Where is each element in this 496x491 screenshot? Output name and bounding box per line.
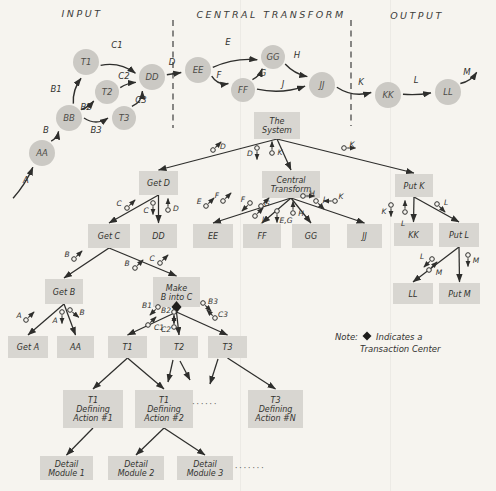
data-couple-label-M: M (473, 256, 480, 265)
flow-edge-label-G: G (260, 68, 267, 78)
data-couple-circle-icon (389, 203, 394, 208)
module-label-line: Get B (53, 288, 75, 297)
data-couple-circle-icon (291, 211, 296, 216)
module-label-line: Detail (124, 460, 148, 469)
data-couple-label-L: L (401, 219, 405, 228)
module-label-line: Put L (449, 231, 469, 240)
data-couple-label-J: J (260, 215, 264, 224)
data-couple-F: F (215, 191, 231, 204)
flow-edge-H (285, 64, 307, 77)
section-header-input: INPUT (62, 8, 103, 19)
data-couple-label-C2: C2 (161, 325, 171, 334)
data-couple-label-B1: B1 (142, 301, 152, 310)
flow-edge-label-K: K (358, 77, 365, 87)
data-couple-circle-icon (314, 199, 319, 204)
module-label-line: Module 3 (187, 469, 224, 478)
module-label-line: Defining (259, 405, 293, 414)
data-couple-circle-icon (133, 266, 138, 271)
data-couple-label-E,G: E,G (280, 216, 293, 225)
link-getB-to-getA (28, 304, 64, 335)
link-putK-to-putL (414, 197, 459, 222)
data-couple-circle-icon (172, 310, 177, 315)
module-label-line: Get C (98, 232, 121, 241)
link-system-to-putK (277, 139, 414, 173)
module-label-putK: Put K (404, 182, 426, 191)
link-act2-to-det2 (136, 428, 164, 455)
module-label-putM: Put M (448, 290, 471, 299)
link-putK-to-kk (414, 197, 415, 222)
data-couple-A: A (15, 311, 34, 323)
flow-edge-label-L: L (414, 75, 419, 85)
data-couple-H: H (291, 202, 304, 218)
data-couple-G: G (259, 198, 270, 208)
note-prefix: Note: (335, 332, 358, 342)
data-couple-label-B: B (79, 308, 84, 317)
data-couple-arrow-icon (76, 251, 82, 257)
module-label-line: Get D (147, 179, 170, 188)
data-couple-circle-icon (151, 201, 156, 206)
data-couple-B3: B3 (201, 297, 218, 312)
module-label-line: Put M (448, 290, 471, 299)
module-label-line: Detail (55, 460, 79, 469)
flow-edge-C2 (120, 82, 136, 87)
data-couple-circle-icon (204, 204, 209, 209)
module-label-line: Action #2 (143, 414, 184, 423)
transform-analysis-diagram: INPUTCENTRAL TRANSFORMOUTPUTABB1B2B3C1C2… (0, 0, 496, 491)
module-label-putL: Put L (449, 231, 469, 240)
data-couple-circle-icon (166, 208, 171, 213)
flow-edge-label-D: D (169, 57, 176, 67)
note-line2: Transaction Center (360, 344, 441, 354)
data-couple-C3: C3 (207, 310, 228, 321)
data-couple-arrow-icon (205, 305, 211, 311)
flow-edge-label-C1: C1 (111, 40, 122, 50)
module-label-line: Action #1 (72, 414, 113, 423)
data-couple-B: B (68, 308, 85, 318)
module-label-central: CentralTransform (271, 176, 312, 194)
data-couple-K: K (382, 203, 394, 217)
data-couple-label-H: H (298, 209, 304, 218)
module-label-line: Defining (147, 405, 181, 414)
flow-edge-label-B: B (43, 125, 49, 135)
data-couple-label-L: L (444, 198, 448, 207)
data-couple-K: K (270, 142, 284, 157)
flow-node-label-GG: GG (266, 52, 280, 62)
data-couple-D: D (247, 146, 259, 160)
module-label-line: GG (305, 232, 317, 241)
data-couple-D: D (166, 199, 179, 213)
flow-node-label-KK: KK (382, 90, 395, 100)
data-couple-circle-icon (255, 146, 260, 151)
flow-edge-B3 (84, 118, 108, 122)
data-couple-label-D: D (247, 149, 253, 158)
flow-node-label-T1: T1 (81, 57, 92, 67)
link-act1-to-det1 (67, 428, 94, 455)
link-t1-to-act1 (93, 358, 128, 389)
data-couple-C: C (116, 199, 135, 211)
data-couple-label-B: B (124, 259, 129, 268)
diagram-canvas: INPUTCENTRAL TRANSFORMOUTPUTABB1B2B3C1C2… (0, 0, 496, 491)
data-couple-circle-icon (24, 318, 29, 323)
data-couple-label-F: F (241, 195, 246, 204)
note-line1: Indicates a (376, 332, 422, 342)
module-label-line: AA (69, 343, 81, 352)
data-couple-D: D (211, 142, 226, 153)
data-couple-circle-icon (270, 151, 275, 156)
data-couple-label-M: M (436, 268, 443, 277)
flow-edge-K (337, 87, 371, 94)
data-couple-F: F (241, 195, 252, 212)
module-label-line: T1 (159, 396, 169, 405)
module-label-line: JJ (360, 232, 367, 241)
data-couple-circle-icon (301, 194, 306, 199)
data-couple-arrow-icon (72, 312, 78, 317)
data-couple-label-K: K (350, 140, 356, 149)
flow-edge-label-M: M (463, 67, 471, 77)
module-label-getB: Get B (53, 288, 75, 297)
section-header-output: OUTPUT (390, 10, 444, 21)
data-couple-arrow-icon (28, 312, 34, 318)
data-couple-label-K: K (339, 192, 345, 201)
link-t3-to-actN (228, 358, 276, 389)
data-couple-circle-icon (125, 206, 130, 211)
flow-edge-label-H: H (294, 50, 301, 60)
data-couple-label-D: D (220, 142, 226, 151)
module-label-line: T1 (88, 396, 98, 405)
flow-edge-B1 (73, 78, 81, 103)
